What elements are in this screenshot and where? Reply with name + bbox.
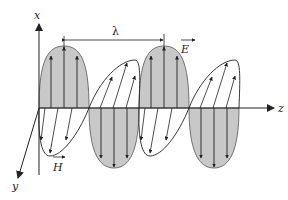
h-lobe-2: [89, 60, 140, 108]
h-lobe-1: [39, 108, 89, 156]
diagram-canvas: x y z λ E H: [0, 0, 288, 200]
electric-field-label: E: [180, 43, 189, 56]
wavelength-label: λ: [112, 25, 119, 38]
h-lobe-4: [189, 60, 240, 108]
z-axis-label: z: [277, 102, 284, 115]
y-axis: [18, 108, 39, 178]
em-wave-diagram: x y z λ E H: [0, 0, 288, 200]
x-axis-label: x: [34, 9, 41, 22]
h-lobe-3: [139, 108, 189, 156]
magnetic-field-label: H: [52, 161, 63, 174]
y-axis-label: y: [11, 180, 19, 193]
